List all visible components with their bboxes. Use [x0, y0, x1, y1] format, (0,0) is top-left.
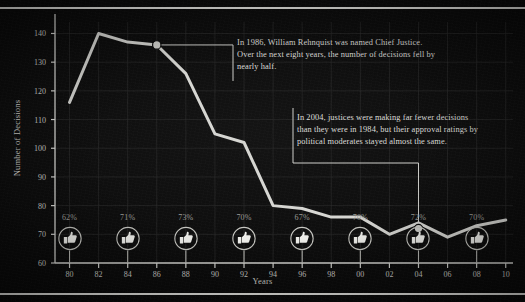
x-tick-label: 10 [502, 270, 510, 279]
approval-thumbs-up-icon [290, 226, 315, 255]
approval-thumbs-up-icon [232, 226, 257, 255]
approval-percent-label: 70% [353, 213, 368, 222]
thumbs-up-icon [232, 226, 257, 251]
annotation-rehnquist: In 1986, William Rehnquist was named Chi… [237, 37, 441, 73]
approval-percent-label: 67% [295, 213, 310, 222]
approval-thumbs-up-icon [464, 226, 489, 255]
approval-percent-label: 72% [411, 213, 426, 222]
approval-percent-label: 70% [236, 213, 251, 222]
y-tick-label: 120 [24, 86, 46, 95]
x-tick-label: 08 [473, 270, 481, 279]
thumbs-up-icon [115, 226, 140, 251]
x-tick-label: 96 [298, 270, 306, 279]
y-tick-label: 140 [24, 29, 46, 38]
x-tick-label: 02 [385, 270, 393, 279]
chart-figure: Number of Decisions Years In 1986, Willi… [0, 0, 525, 302]
y-tick-label: 70 [24, 230, 46, 239]
y-tick-label: 130 [24, 58, 46, 67]
y-tick-label: 100 [24, 144, 46, 153]
thumbs-up-icon [348, 226, 373, 251]
x-tick-label: 00 [356, 270, 364, 279]
rehnquist-marker [153, 41, 161, 49]
x-tick-label: 04 [414, 270, 422, 279]
x-tick-label: 92 [240, 270, 248, 279]
y-tick-label: 80 [24, 201, 46, 210]
y-tick-label: 60 [24, 259, 46, 268]
approval-percent-label: 70% [469, 213, 484, 222]
x-tick-label: 88 [182, 270, 190, 279]
y-tick-label: 110 [24, 115, 46, 124]
x-axis-ticks [70, 263, 506, 268]
x-tick-label: 98 [327, 270, 335, 279]
y-tick-label: 90 [24, 172, 46, 181]
x-tick-label: 80 [66, 270, 74, 279]
approval-thumbs-up-icon [57, 226, 82, 255]
x-tick-label: 84 [124, 270, 132, 279]
x-tick-label: 94 [269, 270, 277, 279]
annotation-approval-2004: In 2004, justices were making far fewer … [297, 112, 483, 148]
approval-percent-label: 73% [178, 213, 193, 222]
x-tick-label: 90 [211, 270, 219, 279]
x-tick-label: 86 [153, 270, 161, 279]
y-axis-label: Number of Decisions [12, 78, 22, 198]
x-tick-label: 06 [444, 270, 452, 279]
approval-thumbs-up-icon [406, 226, 431, 255]
approval-thumbs-up-icon [348, 226, 373, 255]
approval-thumbs-up-icon [173, 226, 198, 255]
thumbs-up-icon [464, 226, 489, 251]
thumbs-up-icon [173, 226, 198, 251]
thumbs-up-icon [406, 226, 431, 251]
thumbs-up-icon [57, 226, 82, 251]
thumbs-up-icon [290, 226, 315, 251]
approval-thumbs-up-icon [115, 226, 140, 255]
leader-line-rehnquist [157, 45, 233, 81]
approval-percent-label: 62% [62, 213, 77, 222]
x-tick-label: 82 [95, 270, 103, 279]
approval-percent-label: 71% [120, 213, 135, 222]
